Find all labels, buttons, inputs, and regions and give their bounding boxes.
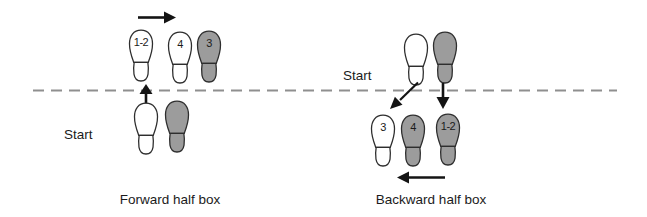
footprint-forward-step-3: 3 xyxy=(195,30,223,83)
step-label: 3 xyxy=(195,37,223,49)
footprint-backward-step-4: 4 xyxy=(399,114,427,167)
step-label: 4 xyxy=(166,38,194,50)
diagonal-down-left-arrow-icon xyxy=(388,81,420,111)
backward-caption: Backward half box xyxy=(331,192,531,207)
footprint-forward-start-right xyxy=(163,100,191,153)
dashed-start-line xyxy=(33,89,617,92)
down-arrow-icon xyxy=(436,83,450,109)
step-label: 4 xyxy=(399,121,427,133)
footprint-forward-step-4: 4 xyxy=(166,31,194,84)
footprint-backward-step-3: 3 xyxy=(369,114,397,167)
left-arrow-icon xyxy=(397,171,445,184)
footprint-backward-start-left xyxy=(402,33,430,86)
footprint-outline xyxy=(163,100,191,153)
backward-start-label: Start xyxy=(343,68,372,83)
forward-start-label: Start xyxy=(64,127,93,142)
step-label: 3 xyxy=(369,121,397,133)
footprint-outline xyxy=(132,102,160,155)
step-label: 1-2 xyxy=(434,120,462,132)
footprint-outline xyxy=(431,31,459,84)
footprint-backward-start-right xyxy=(431,31,459,84)
step-label: 1-2 xyxy=(127,36,155,48)
forward-caption: Forward half box xyxy=(70,192,270,207)
right-arrow-icon xyxy=(138,11,176,24)
dance-step-diagram: 1-2 4 3 xyxy=(0,0,647,217)
footprint-backward-step-1-2: 1-2 xyxy=(434,113,462,166)
footprint-forward-start-left xyxy=(132,102,160,155)
footprint-outline xyxy=(402,33,430,86)
footprint-forward-step-1-2: 1-2 xyxy=(127,29,155,82)
